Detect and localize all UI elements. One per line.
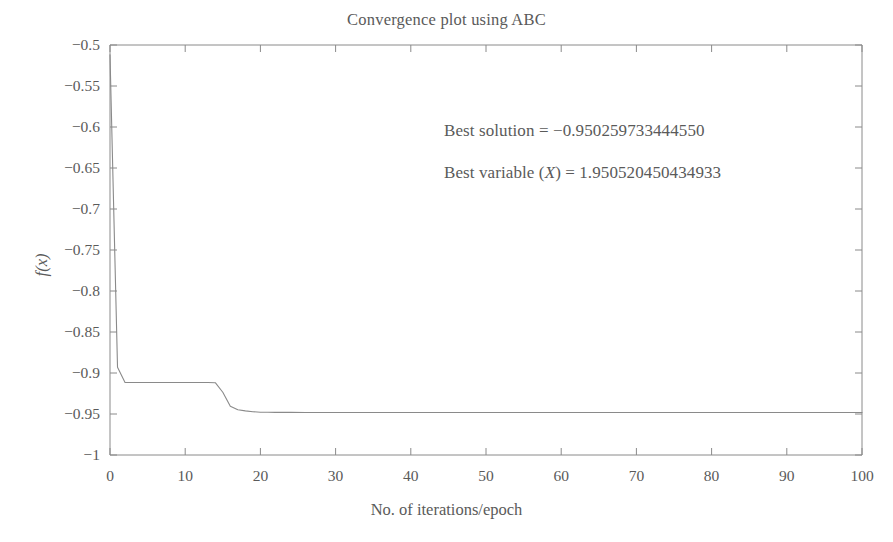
x-tick-label: 70 (629, 467, 645, 485)
y-axis-label-text: f (32, 272, 51, 277)
y-tick-label: −0.9 (30, 364, 100, 382)
y-tick-label: −0.65 (30, 159, 100, 177)
tick-marks (110, 45, 862, 455)
annotation-best-variable: Best variable (X) = 1.950520450434933 (444, 163, 721, 183)
y-tick-label: −1 (30, 446, 100, 464)
plot-canvas (0, 0, 893, 542)
x-tick-label: 60 (553, 467, 569, 485)
x-tick-label: 40 (403, 467, 419, 485)
y-tick-label: −0.7 (30, 200, 100, 218)
x-tick-label: 10 (177, 467, 193, 485)
annotation-best-solution: Best solution = −0.950259733444550 (444, 121, 705, 141)
y-tick-label: −0.5 (30, 36, 100, 54)
x-tick-label: 100 (850, 467, 873, 485)
y-axis-label-variable: x (32, 259, 51, 266)
y-tick-label: −0.85 (30, 323, 100, 341)
y-tick-label: −0.8 (30, 282, 100, 300)
x-tick-label: 30 (328, 467, 344, 485)
axes-frame (110, 45, 862, 455)
convergence-chart-figure: Convergence plot using ABC −0.5−0.55−0.6… (0, 0, 893, 542)
y-tick-label: −0.95 (30, 405, 100, 423)
x-tick-label: 0 (106, 467, 114, 485)
convergence-line (110, 55, 862, 413)
annotation-variable-symbol: X (545, 163, 555, 182)
y-axis-label: f(x) (32, 254, 52, 277)
x-tick-label: 80 (704, 467, 720, 485)
y-tick-label: −0.55 (30, 77, 100, 95)
x-axis-label: No. of iterations/epoch (0, 500, 893, 520)
x-tick-label: 20 (253, 467, 269, 485)
y-tick-label: −0.6 (30, 118, 100, 136)
x-tick-label: 90 (779, 467, 795, 485)
x-tick-label: 50 (478, 467, 494, 485)
